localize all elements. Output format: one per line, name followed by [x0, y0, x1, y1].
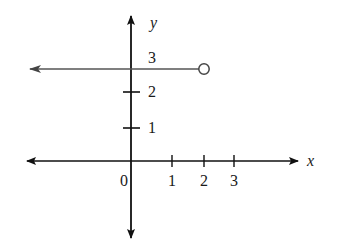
y-tick-label-2: 2: [148, 83, 156, 100]
y-axis-label: y: [148, 14, 158, 32]
open-circle-endpoint: [199, 64, 209, 74]
y-tick-label-3: 3: [148, 49, 156, 66]
x-tick-label-1: 1: [168, 172, 176, 189]
coordinate-plane: y x 0 1 2 3 1 2 3: [0, 0, 337, 245]
x-tick-label-3: 3: [230, 172, 238, 189]
x-tick-label-2: 2: [200, 172, 208, 189]
x-axis-label: x: [306, 152, 314, 169]
y-tick-label-1: 1: [148, 119, 156, 136]
origin-label: 0: [120, 172, 128, 189]
graph-line-y-equals-3: [30, 64, 209, 74]
